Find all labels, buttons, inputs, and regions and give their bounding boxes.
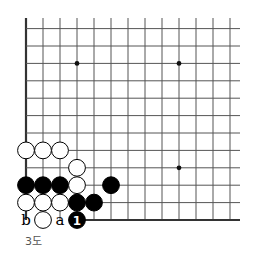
- stones: 1: [18, 142, 120, 228]
- star-point-icon: [177, 61, 182, 66]
- white-stone: [69, 159, 86, 176]
- black-stone: [86, 194, 103, 211]
- white-stone: [52, 142, 69, 159]
- black-stone: [69, 194, 86, 211]
- star-point-icon: [75, 61, 80, 66]
- point-label-a: a: [56, 211, 65, 229]
- go-board: 1 ba: [0, 0, 256, 255]
- white-stone: [35, 194, 52, 211]
- white-stone: [52, 194, 69, 211]
- point-label-b: b: [21, 211, 31, 229]
- white-stone: [35, 142, 52, 159]
- black-stone: [103, 177, 120, 194]
- white-stone: [35, 212, 52, 229]
- black-stone: [35, 177, 52, 194]
- black-stone: [52, 177, 69, 194]
- black-stone: [18, 177, 35, 194]
- star-point-icon: [177, 165, 182, 170]
- move-number-label: 1: [73, 214, 81, 228]
- diagram-caption: 3도: [25, 232, 42, 248]
- white-stone: [18, 194, 35, 211]
- white-stone: [69, 177, 86, 194]
- white-stone: [18, 142, 35, 159]
